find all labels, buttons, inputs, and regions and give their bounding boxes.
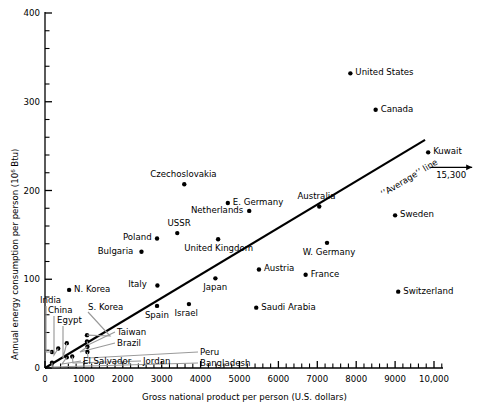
point-label: Australia bbox=[297, 192, 335, 201]
point-label: Taiwan bbox=[117, 328, 146, 337]
point-label: Canada bbox=[381, 105, 414, 114]
y-tick-label: 100 bbox=[22, 274, 40, 284]
data-point bbox=[247, 209, 251, 213]
data-point bbox=[182, 182, 186, 186]
point-label: Czechoslovakia bbox=[150, 170, 216, 179]
point-label: Switzerland bbox=[403, 287, 453, 296]
data-point bbox=[67, 288, 71, 292]
data-point bbox=[155, 283, 159, 287]
point-label: France bbox=[311, 270, 340, 279]
point-label: Brazil bbox=[117, 339, 141, 348]
point-label: Saudi Arabia bbox=[261, 303, 316, 312]
point-label: Japan bbox=[203, 283, 227, 292]
data-point bbox=[155, 304, 159, 308]
point-label: China bbox=[48, 306, 73, 315]
point-label: W. Germany bbox=[303, 248, 355, 257]
point-label: Jordan bbox=[143, 357, 170, 366]
point-label: N. Korea bbox=[74, 285, 110, 294]
x-tick-label: 2000 bbox=[101, 374, 145, 384]
point-label: India bbox=[40, 296, 61, 305]
x-tick-label: 6000 bbox=[256, 374, 300, 384]
data-point bbox=[325, 241, 329, 245]
point-label: Bulgaria bbox=[98, 247, 134, 256]
point-label: El Salvador bbox=[83, 357, 131, 366]
x-tick-label: 5000 bbox=[218, 374, 262, 384]
data-point bbox=[257, 267, 261, 271]
point-label: Italy bbox=[128, 280, 147, 289]
data-point bbox=[254, 305, 258, 309]
x-axis-title: Gross national product per person (U.S. … bbox=[142, 392, 347, 402]
point-label: Bangladesh bbox=[200, 359, 250, 368]
data-point bbox=[373, 108, 377, 112]
data-point bbox=[393, 213, 397, 217]
scatter-plot: 0100200300400010002000300040005000600070… bbox=[0, 0, 495, 411]
x-tick-label: 7000 bbox=[295, 374, 339, 384]
data-point bbox=[213, 276, 217, 280]
point-label: Egypt bbox=[57, 316, 82, 325]
point-label: Sweden bbox=[400, 210, 434, 219]
point-label: S. Korea bbox=[88, 303, 123, 312]
leader-line bbox=[87, 312, 110, 336]
point-label: Netherlands bbox=[191, 206, 243, 215]
point-label: Austria bbox=[264, 264, 294, 273]
data-point bbox=[175, 231, 179, 235]
x-tick-label: 0 bbox=[23, 374, 67, 384]
data-point bbox=[139, 250, 143, 254]
offscale-value-label: 15,300 bbox=[436, 171, 466, 180]
data-point bbox=[348, 71, 352, 75]
point-label: Poland bbox=[123, 233, 152, 242]
point-label: United States bbox=[355, 68, 413, 77]
data-point bbox=[187, 302, 191, 306]
y-tick-label: 200 bbox=[22, 186, 40, 196]
point-label: USSR bbox=[168, 219, 191, 228]
data-point bbox=[155, 236, 159, 240]
data-point bbox=[317, 204, 321, 208]
point-label: Kuwait bbox=[433, 147, 462, 156]
x-tick-label: 4000 bbox=[179, 374, 223, 384]
y-axis-title: Annual energy consumption per person (10… bbox=[10, 149, 20, 360]
x-tick-label: 9000 bbox=[373, 374, 417, 384]
offscale-arrowhead bbox=[466, 165, 472, 171]
data-point bbox=[216, 237, 220, 241]
x-tick-label: 3000 bbox=[140, 374, 184, 384]
x-tick-label: 1000 bbox=[62, 374, 106, 384]
x-tick-label: 10,000 bbox=[412, 374, 456, 384]
y-tick-label: 300 bbox=[22, 97, 40, 107]
x-tick-label: 8000 bbox=[334, 374, 378, 384]
point-label: Spain bbox=[145, 311, 169, 320]
point-label: United Kingdom bbox=[184, 244, 253, 253]
data-point bbox=[426, 150, 430, 154]
y-tick-label: 400 bbox=[22, 8, 40, 18]
point-label: Peru bbox=[200, 348, 219, 357]
point-label: Israel bbox=[174, 309, 198, 318]
data-point bbox=[303, 273, 307, 277]
data-point bbox=[396, 289, 400, 293]
y-tick-label: 0 bbox=[22, 363, 40, 373]
